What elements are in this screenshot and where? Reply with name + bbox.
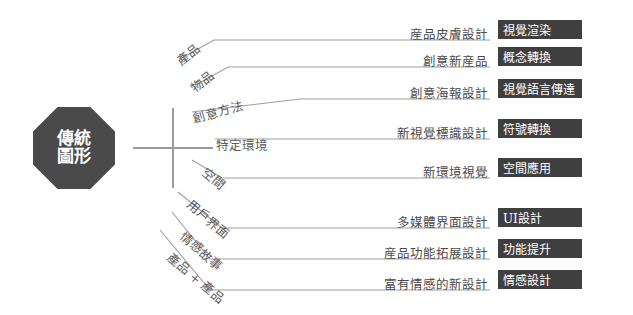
category-label-3: 特定環境 — [216, 135, 268, 154]
mindmap-diagram: 傳統 圖形 產品 物品 創意方法 特定環境 空間 用戶界面 情感故事 產品 + … — [0, 0, 633, 315]
description-label-0: 産品皮膚設計 — [298, 24, 488, 43]
description-label-3: 新視覺標識設計 — [298, 123, 488, 142]
description-label-6: 産品功能拓展設計 — [298, 243, 488, 262]
badge-7: 情感設計 — [498, 270, 582, 289]
badge-5: UI設計 — [498, 208, 582, 227]
root-node-label-line2: 圖形 — [57, 148, 92, 166]
description-label-4: 新環境視覺 — [298, 162, 488, 181]
description-label-5: 多媒體界面設計 — [298, 212, 488, 231]
description-label-7: 富有情感的新設計 — [298, 274, 488, 293]
badge-3: 符號轉換 — [498, 119, 582, 138]
badge-6: 功能提升 — [498, 239, 582, 258]
description-label-2: 創意海報設計 — [298, 83, 488, 102]
category-label-0: 產品 — [171, 38, 203, 69]
description-label-1: 創意新産品 — [298, 51, 488, 70]
badge-1: 概念轉換 — [498, 47, 582, 66]
root-node-octagon: 傳統 圖形 — [33, 107, 115, 189]
badge-0: 視覺渲染 — [498, 20, 582, 39]
plus-vertical-bar — [172, 108, 174, 188]
badge-4: 空間應用 — [498, 158, 582, 177]
badge-2: 視覺語言傳達 — [498, 79, 582, 98]
category-label-2: 創意方法 — [190, 95, 245, 127]
category-label-1: 物品 — [185, 65, 217, 96]
